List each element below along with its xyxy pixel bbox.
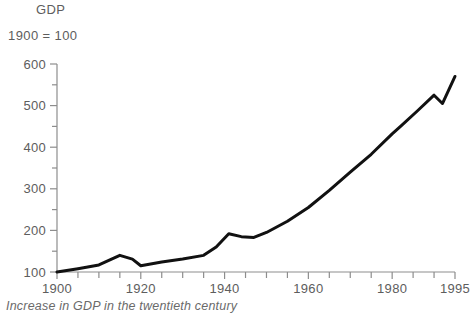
x-tick-label: 1920 — [126, 281, 156, 296]
line-chart-svg: 100200300400500600 190019201940196019801… — [0, 0, 472, 320]
y-tick-label: 100 — [23, 265, 46, 280]
x-axis: 190019201940196019801995 — [42, 272, 470, 296]
x-tick-label: 1960 — [293, 281, 323, 296]
y-tick-label: 300 — [23, 181, 46, 196]
figure-caption: Increase in GDP in the twentieth century — [6, 299, 237, 313]
x-tick-label: 1980 — [377, 281, 407, 296]
data-series-gdp — [57, 76, 455, 272]
chart-root: GDP 1900 = 100 100200300400500600 190019… — [0, 0, 472, 320]
y-tick-label: 400 — [23, 140, 46, 155]
x-tick-label: 1940 — [210, 281, 240, 296]
y-axis: 100200300400500600 — [23, 57, 57, 280]
y-tick-label: 600 — [23, 57, 46, 72]
y-tick-label: 500 — [23, 98, 46, 113]
x-tick-label: 1900 — [42, 281, 72, 296]
y-tick-label: 200 — [23, 223, 46, 238]
x-tick-label: 1995 — [440, 281, 470, 296]
